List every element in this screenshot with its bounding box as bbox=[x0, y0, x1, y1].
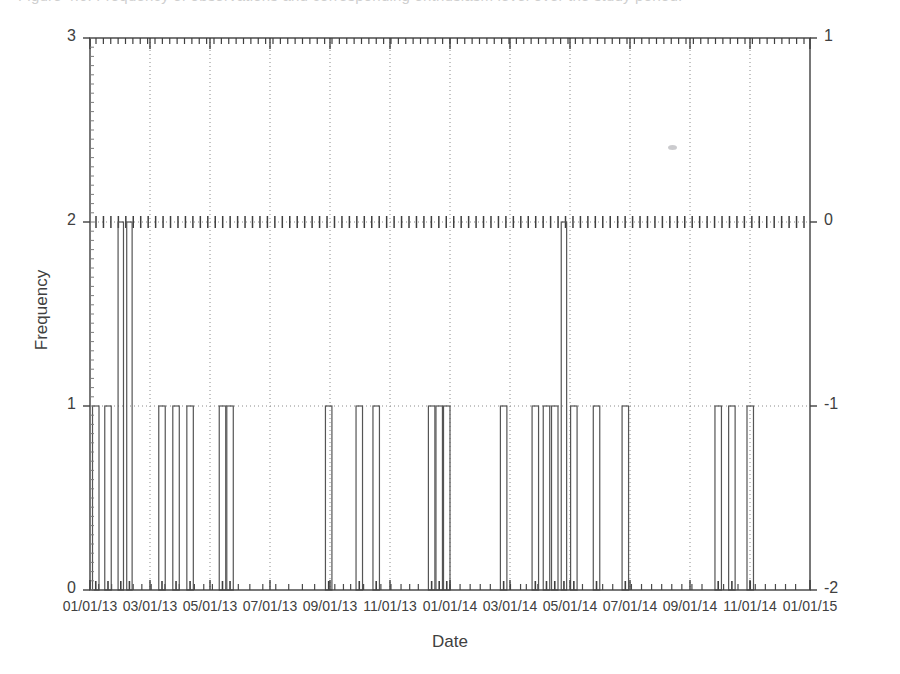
x-axis-title: Date bbox=[0, 632, 900, 652]
x-axis-tick: 01/01/15 bbox=[765, 598, 855, 614]
y-axis-left-tick: 2 bbox=[36, 211, 76, 229]
figure-container: Figure 4.6: Frequency of observations an… bbox=[0, 0, 900, 674]
y-axis-right-tick: -1 bbox=[824, 395, 868, 413]
scan-artifact-speck bbox=[668, 145, 677, 150]
y-axis-left-tick: 0 bbox=[36, 579, 76, 597]
y-axis-right-tick: 0 bbox=[824, 211, 868, 229]
y-axis-right-tick: -2 bbox=[824, 579, 868, 597]
y-axis-left-title: Frequency bbox=[32, 250, 52, 370]
chart-plot bbox=[0, 0, 900, 674]
y-axis-right-tick: 1 bbox=[824, 27, 868, 45]
y-axis-left-tick: 3 bbox=[36, 27, 76, 45]
y-axis-left-tick: 1 bbox=[36, 395, 76, 413]
